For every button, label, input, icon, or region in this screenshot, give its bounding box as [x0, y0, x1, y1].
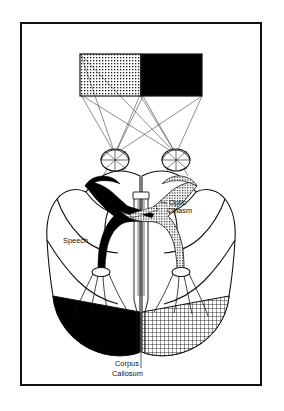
left-eye — [101, 149, 129, 171]
brain-visual-pathway-diagram: Optic Chiasm Speech Corpus Callosum — [0, 0, 284, 411]
ray-4 — [140, 95, 176, 154]
right-visual-field-half — [141, 54, 202, 96]
cc-genu — [133, 192, 149, 199]
corpus-callosum-label-line2: Callosum — [112, 369, 143, 378]
speech-label: Speech — [63, 236, 88, 245]
right-geniculate-body — [172, 268, 190, 277]
figure-root: Optic Chiasm Speech Corpus Callosum — [0, 0, 284, 411]
left-visual-field-half — [80, 54, 141, 96]
right-eye — [162, 149, 190, 171]
visual-field-rectangle — [80, 54, 202, 96]
left-geniculate-body — [92, 268, 110, 277]
optic-chiasm-label-line2: Chiasm — [167, 206, 192, 215]
corpus-callosum-label-line1: Corpus — [115, 359, 139, 368]
